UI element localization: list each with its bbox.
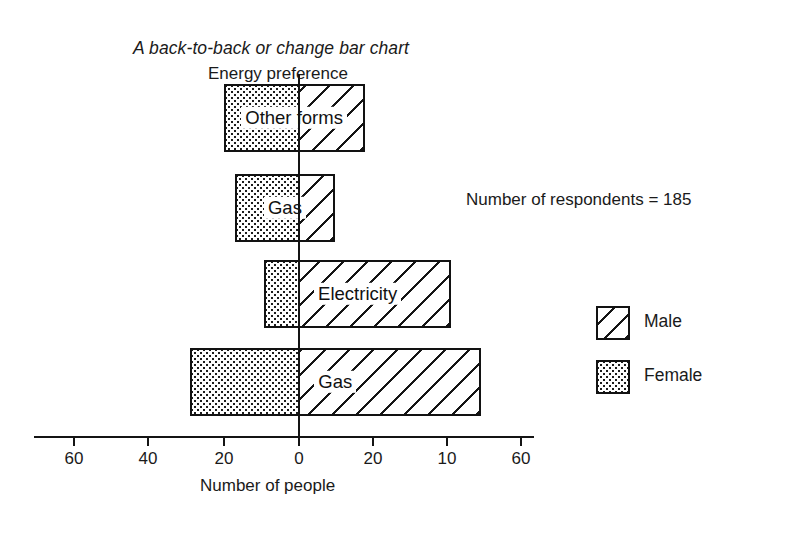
bar-segment-female (264, 260, 298, 328)
zero-reference-line (298, 74, 300, 444)
legend-label: Male (644, 311, 682, 332)
x-axis-tick-label: 20 (364, 449, 383, 469)
x-axis-tick (520, 437, 522, 446)
chart-container: A back-to-back or change bar chart Energ… (0, 0, 794, 533)
x-axis-tick-label: 0 (294, 449, 303, 469)
legend-label: Female (644, 365, 702, 386)
legend-swatch-female (596, 360, 630, 394)
bar-label: Gas (314, 371, 356, 393)
x-axis-tick-label: 60 (65, 449, 84, 469)
x-axis-line (34, 436, 534, 438)
x-axis-tick (372, 437, 374, 446)
x-axis-tick-label: 20 (215, 449, 234, 469)
x-axis-tick (446, 437, 448, 446)
bar-row: Other forms (0, 84, 794, 152)
x-axis-tick (223, 437, 225, 446)
bar-segment-female (190, 348, 298, 416)
x-axis-tick-label: 10 (438, 449, 457, 469)
x-axis-title: Number of people (200, 476, 335, 496)
x-axis-tick-label: 40 (139, 449, 158, 469)
x-axis-tick-label: 60 (512, 449, 531, 469)
bar-row: Gas (0, 174, 794, 242)
legend-swatch-male (596, 306, 630, 340)
x-axis-tick (73, 437, 75, 446)
x-axis-tick (147, 437, 149, 446)
bar-label: Other forms (241, 107, 347, 129)
plot-area: Other formsGasElectricityGas (0, 0, 794, 533)
bar-label: Electricity (314, 283, 401, 305)
